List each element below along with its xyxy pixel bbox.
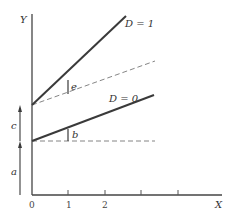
x-tick-label-1: 1 (66, 200, 72, 210)
arrow-c (18, 105, 22, 141)
arrow-a (18, 141, 22, 195)
x-tick-label-2: 2 (102, 200, 108, 210)
diagram-canvas: Y X 0 1 2 D = 1 D = 0 e b a c (0, 0, 225, 221)
y-axis-label: Y (20, 14, 28, 25)
x-axis-label: X (214, 199, 223, 210)
c-label: c (11, 120, 17, 131)
line-d1 (32, 16, 126, 105)
a-label: a (11, 166, 17, 177)
x-ticks (68, 190, 178, 195)
e-label: e (71, 81, 77, 92)
x-tick-label-0: 0 (29, 200, 35, 210)
line-d1-label: D = 1 (124, 18, 154, 29)
b-label: b (72, 129, 78, 140)
line-d0-label: D = 0 (108, 93, 139, 104)
